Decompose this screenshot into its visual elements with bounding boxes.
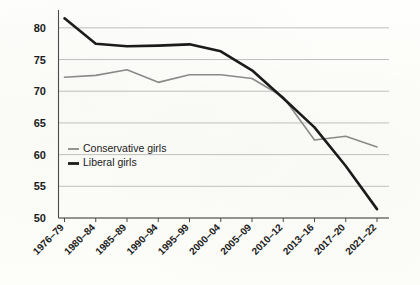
chart-container: 50556065707580 1976–791980–841985–891990… <box>0 0 420 285</box>
y-tick-label-50: 50 <box>34 212 46 224</box>
x-tick-label-1: 1980–84 <box>62 221 98 257</box>
y-axis-tick-labels: 50556065707580 <box>34 22 46 224</box>
x-tick-label-10: 2021–22 <box>343 221 379 257</box>
x-tick-label-6: 2005–09 <box>218 221 254 257</box>
x-axis-tick-labels: 1976–791980–841985–891990–941995–992000–… <box>31 221 379 257</box>
x-tick-label-3: 1990–94 <box>124 221 160 257</box>
series-line-liberal-girls <box>65 18 378 209</box>
x-tick-label-4: 1995–99 <box>156 221 192 257</box>
gridlines-group <box>59 28 390 218</box>
y-tick-label-70: 70 <box>34 85 46 97</box>
legend-label-0: Conservative girls <box>83 142 166 154</box>
x-axis-tick-marks <box>65 218 378 222</box>
x-tick-label-7: 2010–12 <box>249 221 285 257</box>
series-line-conservative-girls <box>65 70 378 147</box>
x-tick-label-2: 1985–89 <box>93 221 129 257</box>
y-tick-label-55: 55 <box>34 180 46 192</box>
x-tick-label-0: 1976–79 <box>31 221 67 257</box>
y-tick-label-80: 80 <box>34 22 46 34</box>
x-tick-label-9: 2017–20 <box>312 221 348 257</box>
y-tick-label-60: 60 <box>34 149 46 161</box>
x-tick-label-5: 2000–04 <box>187 221 223 257</box>
line-chart: 50556065707580 1976–791980–841985–891990… <box>0 0 420 285</box>
x-tick-label-8: 2013–16 <box>281 221 317 257</box>
legend-label-1: Liberal girls <box>83 156 137 168</box>
data-series-group <box>65 18 378 209</box>
y-tick-label-65: 65 <box>34 117 46 129</box>
y-tick-label-75: 75 <box>34 54 46 66</box>
